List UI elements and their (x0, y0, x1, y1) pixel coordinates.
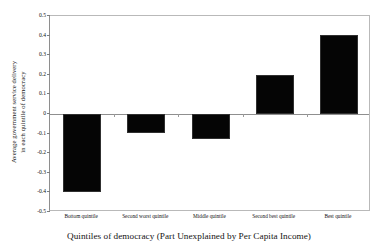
y-tick-label: 0.5 (28, 12, 46, 18)
x-category-label: Middle quintile (177, 213, 241, 220)
bar (63, 114, 101, 192)
y-tick-label: -0.3 (28, 169, 46, 175)
x-tick-mark (114, 114, 115, 117)
x-tick-mark (307, 114, 308, 117)
y-tick-mark (47, 211, 50, 212)
y-tick-mark (47, 74, 50, 75)
y-tick-label: -0.2 (28, 149, 46, 155)
y-axis-tick-labels: 0.50.40.30.20.10-0.1-0.2-0.3-0.4-0.5 (28, 15, 46, 213)
y-axis-title: Average government service delivery in e… (8, 14, 30, 210)
y-tick-label: -0.4 (28, 188, 46, 194)
x-axis-title: Quintiles of democracy (Part Unexplained… (0, 231, 378, 242)
y-axis-title-line-1: Average government service delivery (10, 61, 19, 163)
y-tick-label: 0.3 (28, 51, 46, 57)
bar (192, 114, 230, 139)
y-tick-mark (47, 35, 50, 36)
x-tick-mark (178, 114, 179, 117)
x-category-label: Bottom quintile (49, 213, 113, 220)
bar (320, 35, 358, 114)
y-tick-label: 0 (28, 110, 46, 116)
y-tick-label: 0.4 (28, 32, 46, 38)
y-tick-mark (47, 133, 50, 134)
x-tick-mark (243, 114, 244, 117)
bar-chart-figure: Average government service delivery in e… (0, 0, 378, 250)
plot-area (49, 15, 370, 211)
y-tick-label: -0.5 (28, 208, 46, 214)
y-tick-mark (47, 15, 50, 16)
y-tick-label: -0.1 (28, 130, 46, 136)
x-category-label: Best quintile (306, 213, 370, 220)
x-category-label: Second best quintile (242, 213, 306, 220)
y-tick-mark (47, 93, 50, 94)
y-tick-mark (47, 191, 50, 192)
bar (256, 75, 294, 114)
y-tick-mark (47, 152, 50, 153)
bar (127, 114, 165, 133)
x-axis-category-labels: Bottom quintileSecond worst quintileMidd… (49, 213, 370, 225)
y-tick-mark (47, 172, 50, 173)
y-tick-mark (47, 54, 50, 55)
plot-inner (50, 16, 369, 210)
y-tick-label: 0.2 (28, 71, 46, 77)
y-tick-label: 0.1 (28, 90, 46, 96)
y-axis-title-line-2: in each quintile of democracy (19, 61, 28, 163)
x-category-label: Second worst quintile (113, 213, 177, 220)
y-tick-mark (47, 113, 50, 114)
